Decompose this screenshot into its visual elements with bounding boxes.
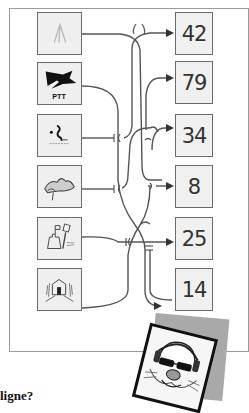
wave-icon-box[interactable] <box>37 165 82 208</box>
wave-sea-icon <box>38 166 81 207</box>
tent-icon-box[interactable] <box>37 12 82 55</box>
number-box[interactable]: 8 <box>175 165 213 208</box>
diving-swimmer-icon <box>38 115 81 156</box>
swimmer-icon-box[interactable] <box>37 114 82 157</box>
sandcastle-icon-box[interactable] <box>37 217 82 260</box>
number-value: 14 <box>182 278 207 302</box>
ptt-post-logo-icon: PTT <box>38 63 81 104</box>
number-value: 25 <box>182 227 207 251</box>
number-box[interactable]: 14 <box>175 268 213 311</box>
tent-icon <box>38 13 81 54</box>
cat-with-sunglasses-icon <box>135 326 214 409</box>
number-box[interactable]: 34 <box>175 114 213 157</box>
number-value: 8 <box>188 175 200 199</box>
house-trees-icon <box>38 269 81 310</box>
number-box[interactable]: 42 <box>175 12 213 55</box>
number-value: 34 <box>182 124 207 148</box>
number-box[interactable]: 25 <box>175 217 213 260</box>
number-box[interactable]: 79 <box>175 61 213 104</box>
question-text: ligne? <box>0 388 33 404</box>
house-icon-box[interactable] <box>37 268 82 311</box>
svg-text:PTT: PTT <box>52 93 66 101</box>
sandcastle-icon <box>38 218 81 259</box>
ptt-icon-box[interactable]: PTT <box>37 62 82 105</box>
number-value: 79 <box>182 71 207 95</box>
number-value: 42 <box>182 22 207 46</box>
